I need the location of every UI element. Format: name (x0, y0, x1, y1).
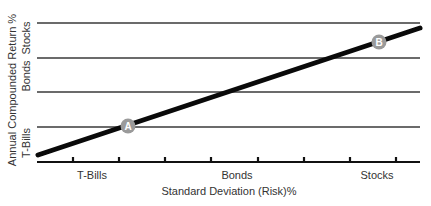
risk-return-chart: A B Annual Compounded Return % T-Bills B… (0, 0, 431, 206)
marker-b-label: B (375, 37, 382, 48)
x-label-bonds: Bonds (221, 169, 253, 181)
x-label-tbills: T-Bills (77, 169, 107, 181)
y-label-tbills: T-Bills (20, 128, 32, 158)
gridlines (37, 23, 420, 127)
marker-b: B (372, 35, 387, 50)
x-axis-title: Standard Deviation (Risk)% (161, 185, 296, 197)
y-axis-title: Annual Compounded Return % (6, 14, 18, 166)
marker-a: A (121, 119, 136, 134)
x-axis (37, 157, 420, 162)
y-label-stocks: Stocks (20, 21, 32, 55)
marker-a-label: A (124, 121, 131, 132)
x-label-stocks: Stocks (360, 169, 394, 181)
y-label-bonds: Bonds (20, 60, 32, 92)
